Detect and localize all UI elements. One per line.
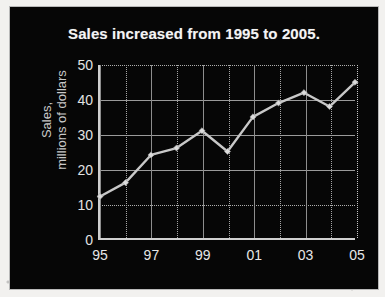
series-marker-group [97, 79, 358, 199]
y-tick-label-0: 0 [85, 232, 93, 248]
chart-figure: Sales increased from 1995 to 2005. Sales… [0, 0, 385, 297]
series-polyline [100, 82, 355, 196]
y-tick-label-10: 10 [77, 197, 93, 213]
x-tick-label-03: 03 [298, 247, 314, 263]
sales-line-series [100, 65, 355, 238]
gridline-x-05 [357, 65, 358, 238]
y-axis-title-line1: Sales, [39, 102, 54, 138]
x-tick-label-99: 99 [195, 247, 211, 263]
y-tick-label-20: 20 [77, 162, 93, 178]
y-tick-label-40: 40 [77, 92, 93, 108]
x-tick-label-95: 95 [92, 247, 108, 263]
y-axis-title: Sales, millions of dollars [37, 40, 71, 200]
x-tick-label-05: 05 [349, 247, 365, 263]
x-tick-label-97: 97 [144, 247, 160, 263]
y-axis-title-line2: millions of dollars [54, 70, 69, 170]
y-tick-label-50: 50 [77, 57, 93, 73]
chart-plate: Sales increased from 1995 to 2005. Sales… [10, 7, 378, 289]
x-tick-label-01: 01 [246, 247, 262, 263]
plot-area: 01020304050 959799010305 [98, 65, 355, 240]
y-tick-label-30: 30 [77, 127, 93, 143]
